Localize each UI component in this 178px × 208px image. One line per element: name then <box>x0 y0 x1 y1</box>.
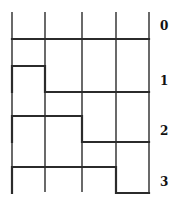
waveform-row-2 <box>12 116 149 142</box>
row-label-0: 0 <box>160 20 168 32</box>
timing-diagram: 0123 <box>0 0 178 208</box>
row-label-1: 1 <box>160 75 168 87</box>
waveform-grid <box>0 0 178 208</box>
waveform-row-1 <box>12 66 149 92</box>
row-label-2: 2 <box>160 125 168 137</box>
waveform-row-3 <box>12 167 149 193</box>
row-label-3: 3 <box>160 176 168 188</box>
